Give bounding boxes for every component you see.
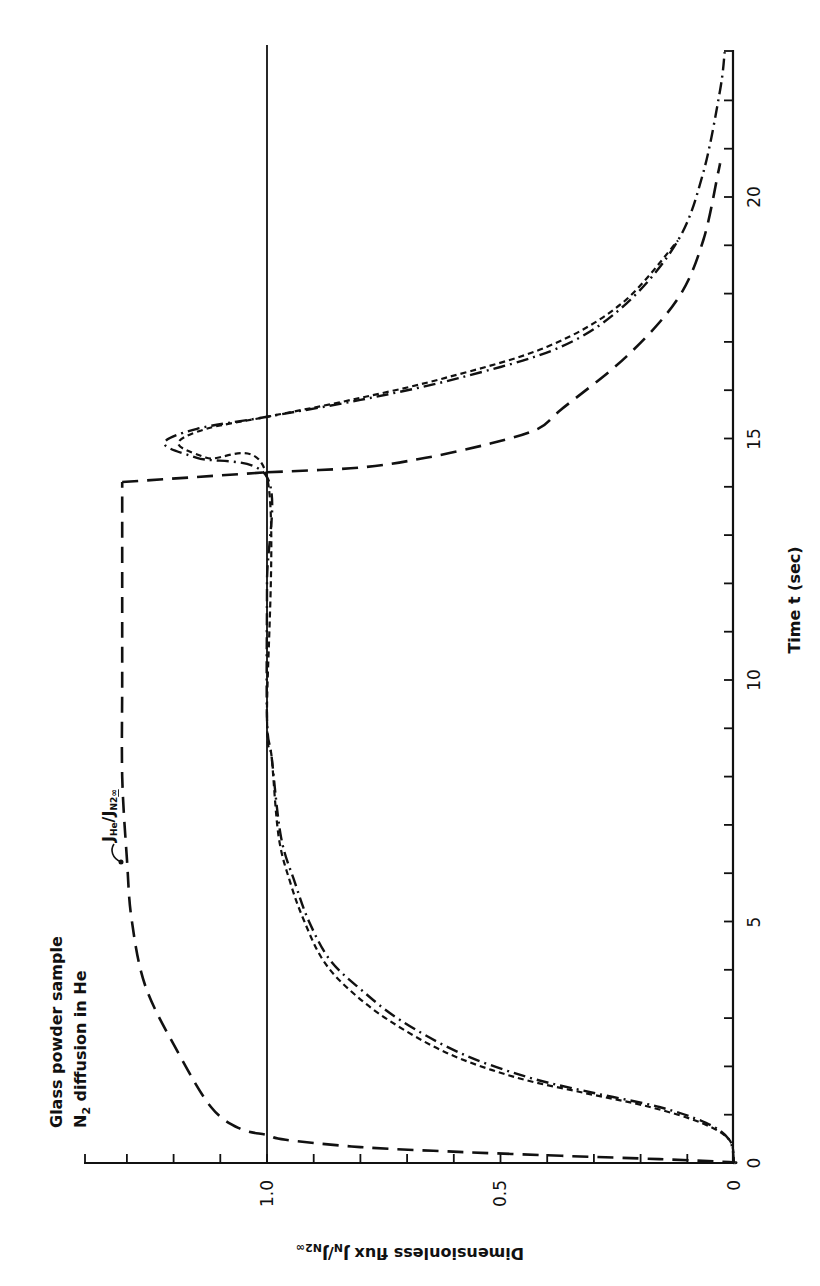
flux-tick-label: 1.0 bbox=[257, 1180, 277, 1207]
n2-flux-dashdot-curve bbox=[164, 52, 734, 1163]
flux-axis-title-main: Dimensionless flux J bbox=[343, 1244, 524, 1263]
sample-annotation: Glass powder sample N2 diffusion in He bbox=[47, 936, 93, 1128]
flux-axis-title-sub2: N2 bbox=[305, 1241, 322, 1254]
flux-chart: 0 5 10 15 20 0 0.5 1.0 Time t (sec) Dime… bbox=[0, 0, 820, 1286]
flux-tick-label: 0 bbox=[724, 1180, 744, 1191]
svg-text:Dimensionless flux JN/JN2∞: Dimensionless flux JN/JN2∞ bbox=[296, 1241, 524, 1263]
annotation-line-2: N2 diffusion in He bbox=[71, 970, 93, 1128]
he-label-text: JHe/JN2∞ bbox=[99, 789, 119, 843]
annotation-n: N bbox=[71, 1115, 90, 1128]
he-label-leader bbox=[112, 844, 121, 862]
annotation-rest: diffusion in He bbox=[71, 970, 90, 1107]
time-ticks bbox=[724, 100, 733, 1114]
annotation-sub: 2 bbox=[80, 1107, 93, 1115]
time-axis-title: Time t (sec) bbox=[785, 546, 804, 653]
time-tick-label: 0 bbox=[744, 1158, 764, 1169]
flux-tick-label: 0.5 bbox=[490, 1180, 510, 1207]
time-tick-label: 15 bbox=[744, 428, 764, 450]
time-tick-labels: 0 5 10 15 20 bbox=[744, 186, 764, 1168]
flux-axis-title-sub3: ∞ bbox=[296, 1241, 305, 1254]
time-tick-label: 10 bbox=[744, 669, 764, 691]
flux-tick-labels: 0 0.5 1.0 bbox=[257, 1180, 744, 1207]
flux-axis-title-sub: N bbox=[334, 1241, 343, 1254]
flux-axis-title: Dimensionless flux JN/JN2∞ bbox=[296, 1241, 524, 1263]
time-tick-label: 20 bbox=[744, 186, 764, 208]
time-tick-label: 5 bbox=[744, 917, 764, 928]
he-curve-label: JHe/JN2∞ bbox=[99, 789, 124, 864]
he-flux-curve bbox=[122, 163, 736, 1163]
he-label-dot bbox=[119, 860, 124, 865]
annotation-line-1: Glass powder sample bbox=[47, 936, 66, 1128]
flux-axis-title-mid: /J bbox=[322, 1244, 334, 1263]
